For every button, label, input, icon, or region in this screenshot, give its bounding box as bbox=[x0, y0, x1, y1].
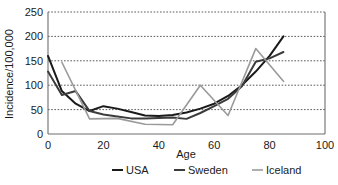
y-tick-label-50: 50 bbox=[31, 104, 43, 116]
x-axis-title: Age bbox=[176, 148, 196, 160]
x-tick-label-60: 60 bbox=[208, 139, 220, 151]
y-tick-label-0: 0 bbox=[37, 128, 43, 140]
legend-label-sweden: Sweden bbox=[188, 164, 228, 176]
y-axis-title: Incidence/100,000 bbox=[3, 29, 15, 119]
x-tick-label-20: 20 bbox=[97, 139, 109, 151]
x-tick-label-0: 0 bbox=[45, 139, 51, 151]
y-tick-label-150: 150 bbox=[25, 55, 43, 67]
gridlines-group bbox=[48, 12, 325, 110]
y-tick-label-250: 250 bbox=[25, 6, 43, 18]
x-tick-label-100: 100 bbox=[316, 139, 334, 151]
plot-axes bbox=[48, 12, 325, 134]
chart-container: 050100150200250 020406080100 Incidence/1… bbox=[0, 0, 338, 185]
x-tick-label-40: 40 bbox=[153, 139, 165, 151]
legend-label-iceland: Iceland bbox=[266, 164, 301, 176]
incidence-by-age-line-chart: 050100150200250 020406080100 Incidence/1… bbox=[0, 0, 338, 185]
data-series-group bbox=[48, 36, 283, 124]
chart-legend: USASwedenIceland bbox=[112, 164, 301, 176]
x-tick-label-80: 80 bbox=[263, 139, 275, 151]
y-tick-label-100: 100 bbox=[25, 79, 43, 91]
legend-label-usa: USA bbox=[126, 164, 149, 176]
y-tick-label-200: 200 bbox=[25, 30, 43, 42]
y-axis-tick-labels: 050100150200250 bbox=[25, 6, 43, 140]
